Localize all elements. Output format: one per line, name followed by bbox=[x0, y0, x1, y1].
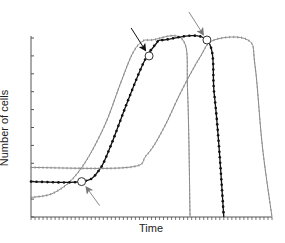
data-point bbox=[149, 49, 152, 52]
data-point bbox=[46, 181, 49, 184]
data-point bbox=[35, 180, 38, 183]
data-point bbox=[63, 181, 66, 184]
axes bbox=[31, 36, 272, 220]
data-point bbox=[183, 35, 186, 38]
data-point bbox=[156, 40, 159, 43]
data-point bbox=[127, 99, 130, 102]
x-axis-label: Time bbox=[139, 222, 163, 234]
data-point bbox=[218, 150, 221, 153]
data-point bbox=[52, 181, 55, 184]
data-point bbox=[172, 37, 175, 40]
data-point bbox=[212, 68, 215, 71]
data-point bbox=[216, 123, 219, 126]
data-point bbox=[135, 78, 138, 81]
data-point bbox=[141, 63, 144, 66]
data-point bbox=[100, 165, 103, 168]
data-point bbox=[68, 181, 71, 184]
data-point bbox=[123, 109, 126, 112]
data-point bbox=[199, 35, 202, 38]
data-point bbox=[137, 73, 140, 76]
data-point bbox=[221, 194, 224, 197]
series-group bbox=[30, 34, 272, 217]
data-point bbox=[222, 211, 225, 214]
curve-right bbox=[31, 36, 272, 217]
open-circle-marker bbox=[145, 52, 153, 60]
growth-curve-chart bbox=[0, 0, 285, 243]
data-point bbox=[94, 174, 97, 177]
open-circle-marker bbox=[78, 178, 86, 186]
data-point bbox=[177, 36, 180, 39]
data-point bbox=[210, 46, 213, 49]
arrow-icon bbox=[131, 28, 145, 50]
data-point bbox=[220, 172, 223, 175]
data-point bbox=[131, 89, 134, 92]
data-point bbox=[212, 74, 215, 77]
data-point bbox=[219, 156, 222, 159]
data-point bbox=[111, 140, 114, 143]
data-point bbox=[212, 63, 215, 66]
data-point bbox=[212, 57, 215, 60]
data-point bbox=[212, 79, 215, 82]
data-point bbox=[105, 155, 108, 158]
curve-left bbox=[31, 35, 190, 217]
data-point bbox=[220, 178, 223, 181]
data-point bbox=[221, 200, 224, 203]
data-point bbox=[41, 181, 44, 184]
data-point bbox=[215, 112, 218, 115]
data-point bbox=[214, 107, 217, 110]
data-point bbox=[109, 145, 112, 148]
curve-left-line bbox=[31, 36, 190, 217]
data-point bbox=[212, 85, 215, 88]
data-point bbox=[161, 39, 164, 42]
data-point bbox=[129, 94, 132, 97]
data-point bbox=[217, 140, 220, 143]
data-point bbox=[107, 150, 110, 153]
curve-right-line bbox=[31, 37, 272, 217]
data-point bbox=[217, 134, 220, 137]
data-point bbox=[222, 205, 225, 208]
data-point bbox=[30, 180, 33, 183]
data-point bbox=[57, 181, 60, 184]
data-point bbox=[221, 189, 224, 192]
data-point bbox=[125, 104, 128, 107]
data-point bbox=[115, 130, 118, 133]
data-point bbox=[113, 135, 116, 138]
annotations-group bbox=[78, 12, 211, 206]
data-point bbox=[103, 160, 106, 163]
arrow-icon bbox=[87, 188, 100, 206]
data-point bbox=[74, 181, 77, 184]
data-point bbox=[214, 101, 217, 104]
open-circle-marker bbox=[203, 36, 211, 44]
data-point bbox=[219, 167, 222, 170]
data-point bbox=[133, 83, 136, 86]
data-point bbox=[216, 129, 219, 132]
data-point bbox=[194, 34, 197, 37]
data-point bbox=[211, 52, 214, 55]
annotation-1 bbox=[78, 178, 100, 206]
data-point bbox=[188, 34, 191, 37]
data-point bbox=[117, 125, 120, 128]
data-point bbox=[215, 118, 218, 121]
data-point bbox=[219, 161, 222, 164]
arrow-icon bbox=[189, 12, 203, 34]
data-point bbox=[139, 68, 142, 71]
data-point bbox=[121, 114, 124, 117]
data-point bbox=[97, 170, 100, 173]
data-point bbox=[166, 38, 169, 41]
data-point bbox=[213, 96, 216, 99]
data-point bbox=[90, 178, 93, 181]
data-point bbox=[119, 119, 122, 122]
data-point bbox=[213, 90, 216, 93]
annotation-3 bbox=[189, 12, 211, 44]
annotation-2 bbox=[131, 28, 153, 60]
data-point bbox=[153, 45, 156, 48]
data-point bbox=[220, 183, 223, 186]
data-point bbox=[218, 145, 221, 148]
